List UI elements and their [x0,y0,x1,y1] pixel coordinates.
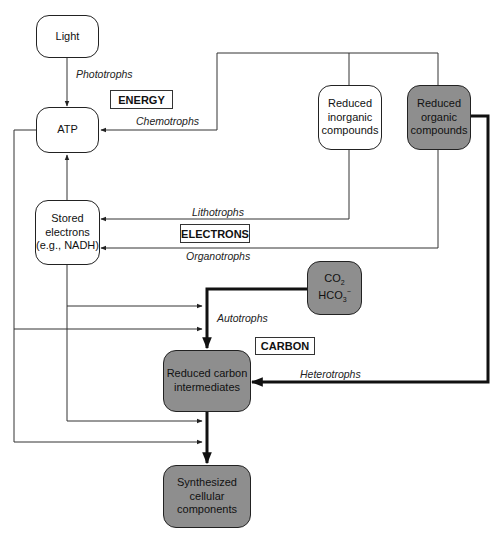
node-text: HCO [318,288,342,300]
node-text: electrons [36,226,99,240]
organotrophs-arrow [101,150,438,248]
heterotrophs-label: Heterotrophs [300,368,361,380]
light-node: Light [36,15,99,58]
node-text: compounds [322,124,379,138]
stored-electrons-node: Stored electrons (e.g., NADH) [35,200,100,265]
node-text: (e.g., NADH) [36,239,99,253]
node-text: intermediates [167,381,248,395]
light-label: Light [56,30,80,44]
atp-label: ATP [57,123,78,137]
connector-lines [0,0,500,537]
node-text: Synthesized [177,476,237,490]
chemotrophs-label: Chemotrophs [136,115,199,127]
synthesized-node: Synthesized cellular components [163,465,251,528]
superscript: − [347,288,351,295]
subscript: 2 [341,280,345,287]
node-text: Reduced [322,97,379,111]
node-text: compounds [411,124,468,138]
co2-node: CO2 HCO3− [307,261,362,315]
atp-node: ATP [36,107,99,153]
organotrophs-label: Organotrophs [186,250,250,262]
node-text: inorganic [322,111,379,125]
node-text: CO [324,272,341,284]
node-text: Reduced [411,97,468,111]
reduced-inorganic-node: Reduced inorganic compounds [318,85,382,150]
node-text: components [177,503,237,517]
reduced-carbon-node: Reduced carbon intermediates [163,350,251,412]
node-text: organic [411,111,468,125]
reduced-organic-node: Reduced organic compounds [407,85,471,150]
node-text: cellular [177,490,237,504]
phototrophs-label: Phototrophs [76,68,133,80]
subscript: 3 [343,296,347,303]
lithotrophs-label: Lithotrophs [192,206,244,218]
node-text: Reduced carbon [167,367,248,381]
node-text: Stored [36,212,99,226]
energy-tag: ENERGY [110,90,173,109]
electrons-tag: ELECTRONS [180,224,250,243]
autotrophs-label: Autotrophs [217,312,268,324]
carbon-tag: CARBON [255,337,315,355]
